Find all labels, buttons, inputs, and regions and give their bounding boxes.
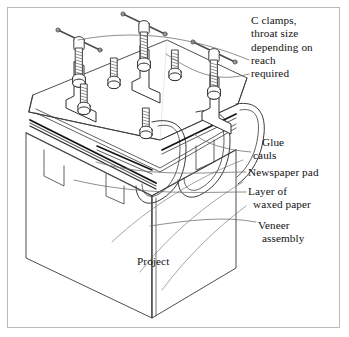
- callout-glue-cauls-line1: Glue: [262, 136, 284, 149]
- callout-c-clamps: C clamps, throat size depending on reach…: [251, 14, 313, 80]
- figure-canvas: C clamps, throat size depending on reach…: [0, 0, 349, 337]
- callout-waxed-paper-line2: waxed paper: [253, 198, 311, 211]
- callout-veneer-assembly-line1: Veneer: [258, 219, 290, 232]
- callout-c-clamps-line2: throat size: [251, 27, 298, 39]
- callout-waxed-paper-line1: Layer of: [248, 185, 287, 198]
- callout-veneer-assembly-line2: assembly: [262, 232, 304, 245]
- callout-c-clamps-line3: depending on: [251, 41, 313, 53]
- callout-project: Project: [137, 255, 169, 268]
- callout-newspaper-pad: Newspaper pad: [248, 166, 319, 179]
- callout-c-clamps-line4: reach: [251, 54, 276, 66]
- callout-c-clamps-line5: required: [251, 67, 289, 79]
- callout-c-clamps-line1: C clamps,: [251, 14, 297, 26]
- callout-glue-cauls-line2: cauls: [253, 149, 277, 162]
